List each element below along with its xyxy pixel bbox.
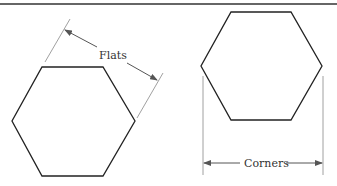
flats-arrow-1 xyxy=(65,30,97,47)
corners-label: Corners xyxy=(244,157,289,170)
flats-extension-line-1 xyxy=(45,19,70,62)
flats-label: Flats xyxy=(99,49,127,62)
flats-extension-line-2 xyxy=(137,73,163,118)
hexagon-corners xyxy=(201,12,322,120)
hexagon-dimension-diagram: Flats Corners xyxy=(0,0,337,186)
flats-figure: Flats xyxy=(12,19,163,176)
corners-figure: Corners xyxy=(201,12,323,175)
hexagon-flats xyxy=(12,67,135,176)
flats-arrow-2 xyxy=(127,63,157,80)
